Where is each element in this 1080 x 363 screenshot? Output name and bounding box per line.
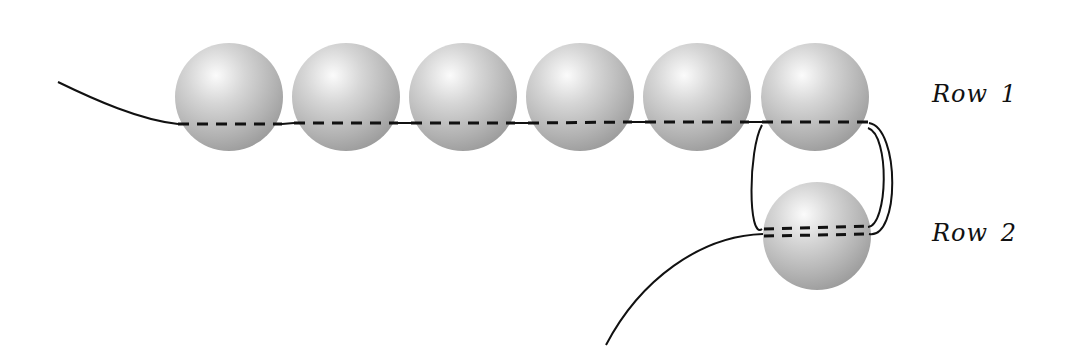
- bead-5: [643, 43, 751, 151]
- thread-tail-start: [58, 82, 178, 124]
- diagram-canvas: [0, 0, 1080, 363]
- bead-4: [526, 43, 634, 151]
- row-1-label: Row 1: [932, 80, 1017, 108]
- row-2-beads: [763, 182, 871, 290]
- bead-7: [763, 182, 871, 290]
- bead-6: [761, 43, 869, 151]
- bead-2: [292, 43, 400, 151]
- bead-pattern-diagram: Row 1 Row 2: [0, 0, 1080, 363]
- row-1-thread: [178, 122, 868, 124]
- bead-1: [175, 43, 283, 151]
- row-2-label: Row 2: [932, 219, 1017, 247]
- thread-tail-end: [606, 234, 763, 345]
- bead-3: [409, 43, 517, 151]
- row-1-beads: [175, 43, 869, 151]
